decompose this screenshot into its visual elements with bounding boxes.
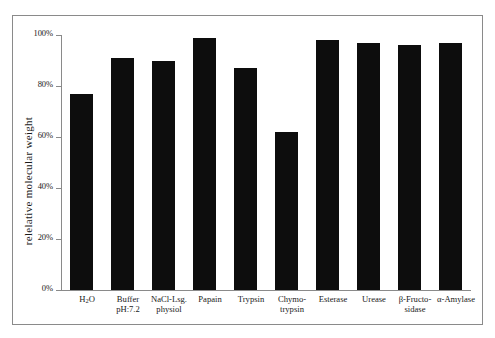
x-tick-label-line2: physiol — [143, 305, 195, 315]
x-tick-label-line1: Urease — [362, 294, 386, 304]
x-tick-label-line1: α-Amylase — [437, 294, 475, 304]
y-tick-label: 80% — [38, 79, 53, 89]
bar-esterase[interactable] — [316, 40, 339, 290]
bar-chart-plot-area: 100%80%60%40%20%0% relelative molecular … — [13, 16, 484, 326]
bar-nacl-lsg-physiol[interactable] — [152, 61, 175, 291]
y-tick-label: 40% — [38, 181, 53, 191]
x-tick-label-line1: β-Fructo- — [399, 294, 432, 304]
x-tick-label-line2: trypsin — [266, 305, 318, 315]
x-tick-label-alpha-amylase: α-Amylase — [430, 295, 482, 305]
bar-beta-fructosidase[interactable] — [398, 45, 421, 290]
bar-alpha-amylase[interactable] — [439, 43, 462, 290]
y-tick-80: 80% — [56, 86, 61, 87]
y-tick-label: 0% — [42, 283, 53, 293]
bar-buffer-ph72[interactable] — [111, 58, 134, 290]
y-tick-20: 20% — [56, 239, 61, 240]
y-tick-label: 20% — [38, 232, 53, 242]
y-axis-title: relelative molecular weight — [19, 53, 37, 309]
y-tick-label: 100% — [34, 28, 53, 38]
bar-trypsin[interactable] — [234, 68, 257, 290]
y-tick-40: 40% — [56, 188, 61, 189]
y-tick-100: 100% — [56, 35, 61, 36]
x-tick-label-line1: NaCl-Lsg. — [151, 294, 187, 304]
bar-h2o[interactable] — [70, 94, 93, 290]
x-tick-label-line1: Buffer — [117, 294, 139, 304]
x-tick-label-line1: Trypsin — [238, 294, 264, 304]
chart-figure-frame: 100%80%60%40%20%0% relelative molecular … — [12, 15, 483, 325]
x-tick-label-line2: sidase — [389, 305, 441, 315]
subscript: 2 — [85, 297, 88, 304]
bar-chymotrypsin[interactable] — [275, 132, 298, 290]
bar-papain[interactable] — [193, 38, 216, 290]
bar-urease[interactable] — [357, 43, 380, 290]
x-tick-label-line1: Papain — [198, 294, 221, 304]
x-tick-label-line1: Chymo- — [278, 294, 306, 304]
y-tick-label: 60% — [38, 130, 53, 140]
x-axis-line — [61, 290, 471, 291]
y-axis-line — [61, 35, 62, 291]
y-tick-60: 60% — [56, 137, 61, 138]
y-tick-0: 0% — [56, 290, 61, 291]
x-tick-label-line1: H2O — [79, 294, 95, 304]
x-tick-label-line1: Esterase — [319, 294, 348, 304]
